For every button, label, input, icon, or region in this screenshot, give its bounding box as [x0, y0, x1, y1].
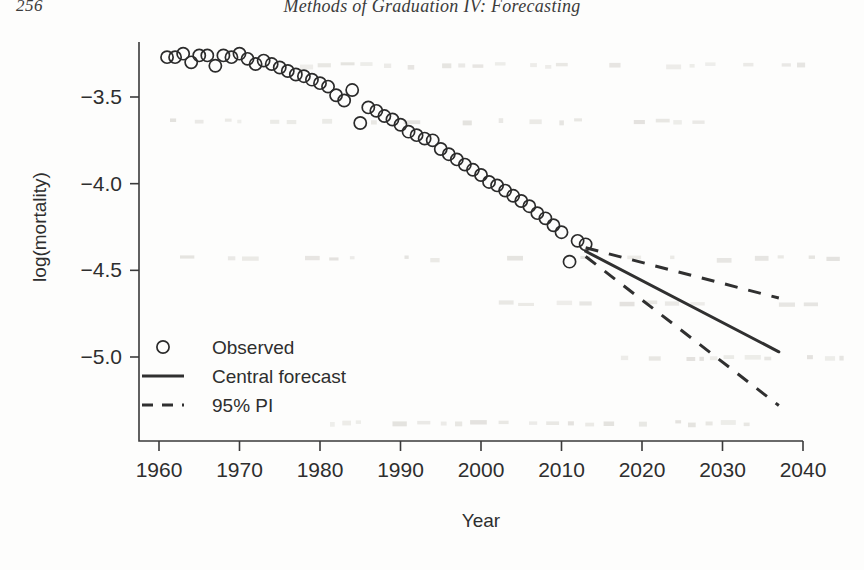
x-tick-label: 2030 — [699, 458, 746, 481]
chart-legend: ObservedCentral forecast95% PI — [142, 337, 347, 416]
ghost-mark — [568, 421, 574, 425]
ghost-mark — [195, 120, 204, 124]
ghost-mark — [745, 355, 761, 360]
y-tick-label: −3.5 — [81, 85, 122, 108]
ghost-mark — [782, 63, 791, 66]
ghost-mark — [470, 420, 487, 424]
ghost-mark — [342, 421, 351, 426]
ghost-mark — [673, 120, 682, 124]
ghost-mark — [322, 119, 332, 124]
ghost-mark — [441, 422, 447, 426]
ghost-mark — [473, 64, 484, 67]
observed-data-point — [483, 176, 495, 188]
x-axis-title: Year — [462, 510, 501, 531]
y-tick-label: −4.0 — [81, 172, 122, 195]
observed-data-point — [290, 68, 302, 80]
ghost-mark — [690, 302, 704, 305]
ghost-mark — [384, 64, 391, 68]
x-tick-label: 2010 — [538, 458, 585, 481]
ghost-mark — [579, 301, 591, 305]
legend-label: Observed — [212, 337, 294, 358]
ghost-mark — [455, 422, 462, 427]
ghost-mark — [305, 256, 320, 260]
ghost-mark — [371, 120, 377, 124]
y-axis-title: log(mortality) — [29, 172, 50, 282]
ghost-mark — [609, 63, 620, 68]
ghost-mark — [405, 256, 409, 259]
ghost-mark — [665, 301, 679, 305]
observed-data-point — [266, 58, 278, 70]
x-tick-label: 2040 — [780, 458, 827, 481]
ghost-mark — [356, 420, 361, 424]
ghost-mark — [287, 120, 297, 124]
ghost-mark — [717, 258, 732, 263]
legend-label: 95% PI — [212, 395, 273, 416]
observed-data-point — [354, 117, 366, 129]
prediction-interval-line — [586, 256, 779, 405]
observed-data-point — [314, 77, 326, 89]
ghost-mark — [350, 256, 355, 259]
ghost-mark — [530, 63, 537, 67]
observed-data-point — [217, 49, 229, 61]
ghost-mark — [688, 423, 696, 428]
legend-label: Central forecast — [212, 366, 347, 387]
ghost-mark — [270, 120, 279, 124]
observed-data-point — [419, 133, 431, 145]
ghost-mark — [499, 300, 514, 304]
ghost-mark — [318, 63, 331, 67]
x-tick-label: 2020 — [619, 458, 666, 481]
observed-data-point — [185, 56, 197, 68]
ghost-mark — [225, 119, 232, 122]
legend-marker-observed — [157, 341, 169, 353]
observed-data-point — [298, 70, 310, 82]
observed-data-point — [563, 256, 575, 268]
ghost-mark — [499, 421, 509, 424]
ghost-mark — [710, 356, 718, 360]
ghost-mark — [809, 256, 815, 259]
ghost-mark — [656, 119, 670, 123]
ghost-mark — [545, 65, 551, 69]
ghost-mark — [557, 301, 572, 305]
x-tick-label: 1980 — [297, 458, 344, 481]
ghost-mark — [228, 256, 235, 260]
ghost-mark — [559, 120, 564, 125]
observed-data-point — [411, 129, 423, 141]
ghost-mark — [530, 119, 542, 124]
ghost-mark — [764, 357, 771, 361]
ghost-mark — [670, 256, 674, 260]
ghost-mark — [690, 64, 695, 68]
ghost-mark — [574, 118, 582, 121]
observed-data-point — [547, 219, 559, 231]
ghost-mark — [755, 256, 769, 261]
observed-data-point — [555, 226, 567, 238]
observed-data-point — [572, 235, 584, 247]
ghost-mark — [705, 62, 715, 66]
ghost-mark — [360, 62, 372, 66]
ghost-mark — [778, 255, 784, 258]
ghost-mark — [743, 63, 753, 67]
ghost-mark — [692, 121, 704, 124]
ghost-mark — [458, 63, 465, 67]
ghost-mark — [639, 422, 647, 427]
ghost-mark — [495, 62, 506, 65]
ghost-mark — [825, 356, 835, 361]
observed-data-point — [169, 51, 181, 63]
central-forecast-line — [586, 251, 779, 352]
ghost-mark — [170, 119, 176, 123]
ghost-mark — [341, 62, 355, 65]
ghost-mark — [839, 356, 843, 361]
x-tick-label: 1970 — [216, 458, 263, 481]
ghost-mark — [807, 355, 813, 359]
ghost-mark — [300, 65, 313, 70]
ghost-mark — [463, 121, 472, 126]
ghost-mark — [417, 421, 430, 425]
ghost-mark — [804, 303, 818, 307]
ghost-mark — [242, 257, 259, 261]
x-tick-label: 2000 — [458, 458, 505, 481]
chart-axes: −3.5−4.0−4.5−5.0196019701980199020002010… — [81, 42, 827, 481]
ghost-mark — [621, 356, 628, 360]
ghost-mark — [499, 118, 504, 123]
observed-data-point — [209, 60, 221, 72]
ghost-mark — [556, 63, 568, 66]
prediction-interval-line — [586, 248, 779, 298]
